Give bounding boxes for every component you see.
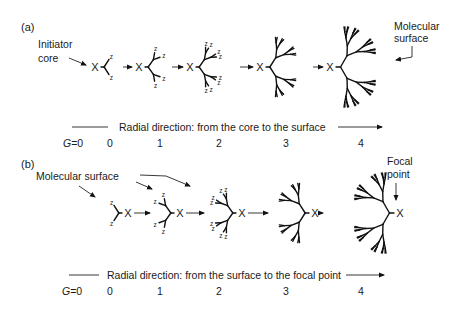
bond-line — [276, 85, 277, 92]
end-group-z: z — [154, 221, 157, 228]
focal-x: X — [176, 207, 184, 219]
bond-line — [364, 52, 370, 53]
core-x: X — [326, 61, 334, 73]
generation-1-structure: Xzzzz — [135, 45, 183, 88]
generation-0-structure: Xzz — [91, 53, 132, 82]
bond-line — [148, 67, 153, 74]
initiator-core-arrow — [69, 58, 86, 65]
generation-2-structure: Xzzzzzzzz — [186, 40, 253, 94]
bond-line — [344, 102, 345, 107]
end-group-z: z — [154, 82, 157, 89]
core-x: X — [135, 61, 143, 73]
end-group-z: z — [212, 225, 215, 232]
end-group-z: z — [162, 228, 165, 235]
generation-4-label-b: 4 — [358, 285, 364, 297]
core-x: X — [256, 61, 264, 73]
focal-x: X — [311, 207, 319, 219]
end-group-z: z — [210, 199, 213, 206]
bond-line — [374, 198, 383, 202]
bond-line — [281, 194, 286, 196]
surface-arrow-gen2 — [140, 175, 190, 186]
bond-line — [375, 247, 377, 251]
end-group-z: z — [154, 198, 157, 205]
bond-line — [353, 101, 355, 105]
panel-a: (a) Initiator core Molecular surface Xzz… — [21, 20, 440, 149]
dendrimer-figure: (a) Initiator core Molecular surface Xzz… — [0, 0, 463, 314]
end-group-z: z — [209, 86, 212, 93]
end-group-z: z — [204, 87, 207, 94]
generation-2-label-a: 2 — [216, 137, 222, 149]
molecular-surface-arrow — [396, 46, 412, 60]
end-group-z: z — [219, 187, 222, 194]
generation-g-label-b: G=0 — [62, 285, 82, 297]
bond-line — [383, 213, 389, 224]
bond-line — [276, 49, 277, 58]
generation-1-structure: Xzzzz — [154, 191, 204, 234]
bond-line — [341, 56, 347, 67]
bond-line — [104, 67, 109, 75]
bond-line — [368, 43, 373, 44]
bond-line — [291, 201, 299, 204]
generation-3-structure: X — [256, 37, 323, 96]
bond-line — [347, 78, 356, 82]
generation-4-label-a: 4 — [358, 137, 364, 149]
bond-line — [148, 60, 153, 67]
generation-0-label-a: 0 — [107, 137, 113, 149]
end-group-z: z — [162, 52, 165, 59]
bond-line — [299, 204, 305, 213]
bond-line — [276, 55, 284, 58]
bond-line — [276, 76, 284, 79]
core-x: X — [186, 61, 194, 73]
end-group-z: z — [110, 220, 113, 227]
focal-x: X — [238, 207, 246, 219]
bond-line — [346, 38, 347, 46]
molecular-surface-label-line1: Molecular — [394, 20, 440, 32]
molecular-surface-label-line2: surface — [394, 32, 429, 44]
bond-line — [360, 228, 366, 229]
radial-direction-axis-b: Radial direction: from the surface to th… — [69, 269, 384, 281]
end-group-z: z — [110, 199, 113, 206]
end-group-z: z — [209, 41, 212, 48]
generation-labels-a: G=0 0 1 2 3 4 — [63, 137, 364, 149]
bond-line — [290, 54, 295, 55]
bond-line — [114, 213, 119, 221]
end-group-z: z — [154, 45, 157, 52]
bond-line — [379, 234, 383, 241]
bond-line — [270, 67, 276, 76]
generation-1-label-b: 1 — [157, 285, 163, 297]
bond-line — [276, 76, 277, 85]
generation-3-label-a: 3 — [283, 137, 289, 149]
bond-line — [347, 102, 348, 107]
end-group-z: z — [110, 74, 113, 81]
bond-line — [114, 205, 119, 213]
bond-line — [383, 184, 384, 192]
bond-line — [385, 248, 386, 253]
bond-line — [341, 67, 347, 78]
generation-4-structure: X — [355, 173, 405, 253]
bond-line — [346, 88, 347, 96]
bond-line — [295, 189, 298, 195]
bond-line — [347, 52, 356, 56]
end-group-z: z — [224, 186, 227, 193]
bond-line — [275, 91, 276, 96]
molecular-surface-label-b: Molecular surface — [36, 170, 119, 182]
dendrimer-generations-b: XzzXzzzzXzzzzzzzzXX — [110, 173, 404, 253]
bond-line — [291, 222, 299, 225]
bond-line — [277, 43, 280, 49]
generation-labels-b: G=0 0 1 2 3 4 — [62, 285, 364, 297]
end-group-z: z — [162, 75, 165, 82]
bond-line — [360, 198, 366, 199]
generation-0-label-b: 0 — [107, 285, 113, 297]
panel-a-label: (a) — [21, 21, 34, 33]
bond-line — [199, 60, 204, 67]
focal-x: X — [396, 207, 404, 219]
bond-line — [346, 32, 347, 38]
bond-line — [199, 67, 204, 74]
bond-line — [279, 226, 284, 227]
bond-line — [299, 213, 305, 222]
bond-line — [298, 231, 299, 238]
generation-2-structure: Xzzzzzzzz — [210, 186, 268, 240]
end-group-z: z — [217, 79, 220, 86]
bond-line — [357, 189, 362, 190]
panel-b: (b) Molecular surface Focal point XzzXzz… — [21, 155, 413, 297]
